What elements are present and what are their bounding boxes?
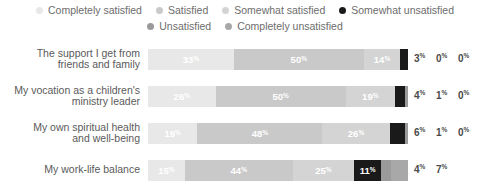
legend-item[interactable]: Completely satisfied [36,5,142,16]
outside-value-label: 1% [436,90,458,101]
percent-sign: % [442,126,448,133]
bar-segment[interactable]: 33% [148,49,234,70]
percent-sign: % [184,93,190,100]
legend-item[interactable]: Completely unsatisfied [225,21,343,32]
row-category-label: The support I get fromfriends and family [0,48,148,71]
bar-segment[interactable]: 50% [216,86,346,107]
bar-segment[interactable]: 26% [148,86,216,107]
row-label-line: friends and family [0,59,140,71]
outside-value-label: 4% [414,90,436,101]
chart-rows: The support I get fromfriends and family… [0,46,490,193]
row-label-line: My work-life balance [0,164,140,176]
chart-row: My work-life balance15%44%25%11%4%7% [0,157,490,183]
bar-segment[interactable]: 48% [197,123,322,144]
percent-sign: % [384,56,390,63]
bar-segment[interactable]: 19% [346,86,395,107]
bar-area: 15%44%25%11%4%7% [148,160,458,181]
legend-swatch-icon [339,7,346,14]
segment-value-label: 26 [348,128,359,139]
outside-value-group: 4%7% [408,164,458,175]
outside-value-label: 0% [436,53,458,64]
bar-segment[interactable] [381,160,391,181]
percent-sign: % [420,89,426,96]
chart-row: The support I get fromfriends and family… [0,46,490,72]
legend-swatch-icon [222,7,229,14]
segment-value-label: 15 [158,165,169,176]
percent-sign: % [326,167,332,174]
segment-value-label: 26 [174,91,185,102]
row-category-label: My own spiritual healthand well-being [0,122,148,145]
outside-value-group: 3%0%0% [408,53,480,64]
bar-area: 26%50%19%4%1%0% [148,86,480,107]
bar-area: 33%50%14%3%0%0% [148,49,480,70]
legend-item-label: Unsatisfied [159,21,211,32]
legend-item[interactable]: Unsatisfied [147,21,211,32]
legend-item-label: Satisfied [168,5,208,16]
row-category-label: My work-life balance [0,164,148,176]
legend-swatch-icon [36,7,43,14]
legend-item[interactable]: Somewhat unsatisfied [339,5,454,16]
bar-segment[interactable] [395,86,405,107]
legend-row-1: Completely satisfiedSatisfiedSomewhat sa… [0,2,490,18]
percent-sign: % [420,126,426,133]
outside-value-label: 0% [458,127,480,138]
segment-value-label: 33 [183,54,194,65]
bar-segment[interactable] [400,49,408,70]
outside-value-group: 6%1%0% [408,127,480,138]
percent-sign: % [420,163,426,170]
percent-sign: % [370,167,376,174]
legend-item-label: Somewhat satisfied [234,5,325,16]
segment-value-label: 50 [272,91,283,102]
legend-item[interactable]: Somewhat satisfied [222,5,325,16]
stacked-bar: 33%50%14% [148,49,408,70]
bar-segment[interactable]: 25% [293,160,354,181]
percent-sign: % [464,126,470,133]
bar-segment[interactable] [390,123,406,144]
segment-value-label: 44 [231,165,242,176]
percent-sign: % [442,163,448,170]
legend-item[interactable]: Satisfied [156,5,208,16]
stacked-bar-chart: Completely satisfiedSatisfiedSomewhat sa… [0,0,490,193]
percent-sign: % [420,52,426,59]
bar-segment[interactable] [391,160,408,181]
bar-area: 19%48%26%6%1%0% [148,123,480,144]
bar-segment[interactable]: 50% [234,49,364,70]
percent-sign: % [464,89,470,96]
row-category-label: My vocation as a children'sministry lead… [0,85,148,108]
legend-swatch-icon [147,23,154,30]
outside-value-label: 0% [458,53,480,64]
bar-segment[interactable]: 19% [148,123,197,144]
bar-segment[interactable]: 26% [322,123,390,144]
legend-swatch-icon [225,23,232,30]
percent-sign: % [464,52,470,59]
percent-sign: % [283,93,289,100]
bar-segment[interactable]: 44% [185,160,293,181]
percent-sign: % [169,167,175,174]
bar-segment[interactable]: 11% [354,160,381,181]
outside-value-label: 1% [436,127,458,138]
chart-row: My vocation as a children'sministry lead… [0,83,490,109]
legend-swatch-icon [156,7,163,14]
bar-segment[interactable]: 15% [148,160,185,181]
legend-item-label: Completely unsatisfied [237,21,343,32]
outside-value-label: 7% [436,164,458,175]
outside-value-group: 4%1%0% [408,90,480,101]
segment-value-label: 25 [315,165,326,176]
percent-sign: % [442,89,448,96]
bar-segment[interactable]: 14% [364,49,400,70]
legend-row-2: UnsatisfiedCompletely unsatisfied [0,18,490,34]
legend-item-label: Completely satisfied [48,5,142,16]
segment-value-label: 14 [374,54,385,65]
segment-value-label: 50 [291,54,302,65]
percent-sign: % [301,56,307,63]
percent-sign: % [193,56,199,63]
segment-value-label: 11 [360,165,370,176]
percent-sign: % [262,130,268,137]
percent-sign: % [358,130,364,137]
row-label-line: ministry leader [0,96,140,108]
segment-value-label: 19 [165,128,176,139]
row-label-line: and well-being [0,133,140,145]
segment-value-label: 19 [362,91,373,102]
legend-item-label: Somewhat unsatisfied [351,5,454,16]
segment-value-label: 48 [252,128,263,139]
